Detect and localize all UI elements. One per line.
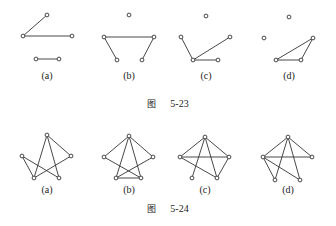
subfigure-label: (b)	[123, 70, 135, 81]
vertex-BR	[298, 178, 302, 182]
subfigure-label: (d)	[282, 184, 294, 195]
vertex-BL	[273, 178, 277, 182]
graph-5-24-b	[102, 134, 155, 180]
edge-R-BR	[217, 157, 229, 178]
edge-BL-R	[193, 37, 230, 60]
subfigure-label: (b)	[123, 184, 135, 195]
caption-number: 5-24	[170, 203, 188, 214]
vertex-L	[261, 155, 265, 159]
edge-T-R	[129, 136, 153, 157]
graph-5-24-a	[20, 133, 73, 180]
vertex-BR	[215, 176, 219, 180]
subfigure-label: (d)	[283, 70, 295, 81]
graph-5-24-c	[178, 135, 231, 180]
vertex-T	[286, 135, 290, 139]
vertex-BR	[299, 58, 303, 62]
vertex-R	[69, 154, 73, 158]
vertex-R	[70, 34, 74, 38]
vertex-BR	[216, 58, 220, 62]
edge-T-BL	[192, 137, 205, 178]
vertex-T	[287, 15, 291, 19]
vertex-L	[179, 35, 183, 39]
graph-5-24-d	[261, 135, 314, 182]
edge-R-BR	[142, 37, 154, 60]
vertex-BL	[191, 58, 195, 62]
vertex-BL	[115, 58, 119, 62]
edge-T-BL	[275, 137, 288, 180]
vertex-R	[311, 36, 315, 40]
vertex-T	[127, 134, 131, 138]
edge-T-R	[288, 137, 312, 157]
vertex-L	[102, 155, 106, 159]
figure-5-24	[20, 133, 314, 182]
figure-caption: 图5-24	[147, 202, 188, 215]
vertex-L	[20, 154, 24, 158]
figure-caption: 图5-23	[147, 97, 188, 110]
vertex-BL	[32, 176, 36, 180]
vertex-R	[310, 155, 314, 159]
subfigure-label: (c)	[200, 70, 211, 81]
edge-T-L	[263, 137, 288, 157]
vertex-BR	[57, 57, 61, 61]
vertex-R	[152, 35, 156, 39]
vertex-BL	[34, 57, 38, 61]
edge-L-BL	[104, 37, 117, 60]
edge-L-BL	[181, 37, 193, 60]
vertex-BR	[139, 176, 143, 180]
edge-T-R	[205, 137, 229, 157]
vertex-L	[262, 36, 266, 40]
subfigure-label: (a)	[41, 70, 52, 81]
graph-5-23-c	[179, 14, 232, 62]
vertex-T	[45, 133, 49, 137]
vertex-BL	[274, 58, 278, 62]
graph-5-23-b	[102, 13, 156, 62]
vertex-R	[227, 155, 231, 159]
vertex-L	[21, 34, 25, 38]
caption-prefix: 图	[147, 204, 156, 214]
edge-T-R	[47, 135, 71, 156]
vertex-R	[228, 35, 232, 39]
vertex-T	[127, 13, 131, 17]
vertex-T	[203, 135, 207, 139]
vertex-T	[45, 13, 49, 17]
figure-5-23	[21, 13, 315, 62]
subfigure-label: (c)	[199, 184, 210, 195]
graph-5-23-a	[21, 13, 74, 61]
vertex-BR	[57, 176, 61, 180]
edge-T-L	[104, 136, 129, 157]
vertex-BR	[140, 58, 144, 62]
vertex-BL	[190, 176, 194, 180]
caption-prefix: 图	[147, 99, 156, 109]
vertex-BL	[114, 176, 118, 180]
edge-T-L	[23, 15, 47, 36]
subfigure-label: (a)	[41, 184, 52, 195]
vertex-R	[151, 155, 155, 159]
graph-5-23-d	[262, 15, 315, 62]
vertex-T	[204, 14, 208, 18]
vertex-L	[178, 155, 182, 159]
vertex-L	[102, 35, 106, 39]
caption-number: 5-23	[170, 98, 188, 109]
edge-T-L	[180, 137, 205, 157]
